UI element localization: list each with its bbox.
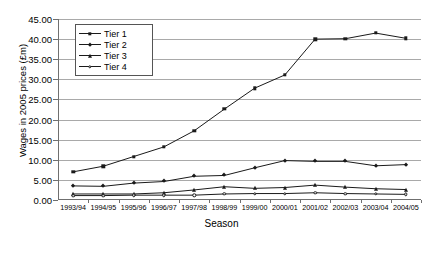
y-axis-tick-label: 5.00: [34, 174, 53, 185]
x-axis-tick-mark: [391, 200, 392, 203]
data-point-marker: [253, 186, 257, 190]
x-axis-tick-mark: [240, 200, 241, 203]
legend-item-label: Tier 1: [101, 29, 127, 39]
x-axis-tick-mark: [270, 200, 271, 203]
x-axis-tick-label: 1996/97: [151, 203, 177, 212]
data-point-marker: [192, 129, 195, 132]
y-axis-tick-label: 45.00: [28, 14, 52, 25]
legend-item-label: Tier 2: [101, 40, 127, 50]
data-point-marker: [313, 183, 317, 187]
x-axis-tick-mark: [179, 200, 180, 203]
y-axis-tick-label: 25.00: [28, 94, 52, 105]
data-point-marker: [374, 187, 378, 191]
data-point-marker: [162, 145, 165, 148]
x-axis-tick-label: 1993/94: [60, 203, 86, 212]
data-point-marker: [343, 185, 347, 189]
y-axis-tick-mark: [53, 59, 58, 60]
cut-off-header-text: [0, 0, 443, 11]
data-point-marker: [71, 170, 74, 173]
x-axis-tick-label: 1994/95: [90, 203, 116, 212]
diamond-marker-icon: [79, 39, 101, 50]
chart-legend: Tier 1Tier 2Tier 3Tier 4: [75, 24, 153, 76]
figure-caption: [0, 249, 443, 266]
x-axis-tick-mark: [421, 200, 422, 203]
x-axis-tick-mark: [209, 200, 210, 203]
y-axis-tick-mark: [53, 39, 58, 40]
x-axis-tick-mark: [330, 200, 331, 203]
x-axis-tick-mark: [300, 200, 301, 203]
legend-item-tier-1: Tier 1: [79, 28, 148, 39]
x-axis-tick-label: 1998/99: [211, 203, 237, 212]
triangle-marker-icon: [79, 50, 101, 61]
y-axis-tick-mark: [53, 79, 58, 80]
data-point-marker: [222, 185, 226, 189]
legend-item-label: Tier 4: [101, 62, 127, 72]
data-point-marker: [132, 155, 135, 158]
data-point-marker: [344, 37, 347, 40]
x-axis-tick-label: 2000/01: [272, 203, 298, 212]
x-axis-tick-mark: [119, 200, 120, 203]
legend-item-tier-2: Tier 2: [79, 39, 148, 50]
y-axis-tick-mark: [53, 19, 58, 20]
legend-item-label: Tier 3: [101, 51, 127, 61]
data-point-marker: [313, 37, 316, 40]
y-axis-tick-mark: [53, 200, 58, 201]
y-axis-tick-mark: [53, 99, 58, 100]
y-axis-tick-label: 10.00: [28, 154, 52, 165]
data-point-marker: [253, 86, 256, 89]
x-axis-tick-label: 2002/03: [332, 203, 358, 212]
y-axis-tick-label: 15.00: [28, 134, 52, 145]
legend-item-tier-3: Tier 3: [79, 50, 148, 61]
series-line-tier-3: [73, 185, 406, 194]
y-axis-tick-mark: [53, 180, 58, 181]
data-point-marker: [374, 31, 377, 34]
x-axis-tick-label: 1997/98: [181, 203, 207, 212]
square-marker-icon: [79, 28, 101, 39]
y-axis-tick-label: 30.00: [28, 74, 52, 85]
x-axis-tick-label: 2004/05: [393, 203, 419, 212]
y-axis-tick-mark: [53, 140, 58, 141]
circle-marker-icon: [79, 61, 101, 72]
data-point-marker: [404, 37, 407, 40]
y-axis-tick-mark: [53, 160, 58, 161]
series-line-tier-2: [73, 161, 406, 187]
x-axis-tick-mark: [88, 200, 89, 203]
x-axis-tick-mark: [149, 200, 150, 203]
data-point-marker: [192, 188, 196, 192]
x-axis-label: Season: [0, 218, 443, 229]
x-axis-tick-label: 1995/96: [121, 203, 147, 212]
y-axis-tick-label: 20.00: [28, 114, 52, 125]
y-axis-tick-label: 0.00: [34, 195, 53, 206]
x-axis-tick-label: 2001/02: [302, 203, 328, 212]
data-point-marker: [102, 165, 105, 168]
y-axis-tick-label: 35.00: [28, 54, 52, 65]
legend-item-tier-4: Tier 4: [79, 61, 148, 72]
chart-figure: Wages in 2005 prices (£m) 0.005.0010.001…: [0, 0, 443, 266]
data-point-marker: [223, 107, 226, 110]
x-axis-tick-mark: [361, 200, 362, 203]
data-point-marker: [283, 185, 287, 189]
data-point-marker: [283, 73, 286, 76]
x-axis-tick-label: 1999/00: [242, 203, 268, 212]
y-axis-tick-mark: [53, 120, 58, 121]
x-axis-tick-label: 2003/04: [363, 203, 389, 212]
data-point-marker: [404, 187, 408, 191]
y-axis-tick-label: 40.00: [28, 34, 52, 45]
